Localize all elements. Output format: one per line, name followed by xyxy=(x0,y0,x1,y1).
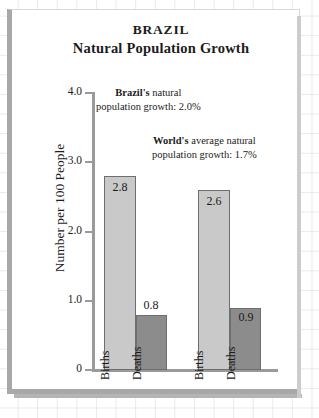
annotation-brazil-line2: population growth: 2.0% xyxy=(96,100,201,114)
y-tick-mark-0 xyxy=(85,369,92,371)
y-tick-label-0: 0 xyxy=(46,362,82,374)
annotation-brazil-rest: natural xyxy=(150,87,182,98)
y-tick-mark-1 xyxy=(85,300,92,302)
bar-value-deaths-world: 0.9 xyxy=(226,310,266,325)
bar-value-deaths-brazil: 0.8 xyxy=(131,298,171,313)
bar-value-births-brazil: 2.8 xyxy=(100,180,140,195)
annotation-world-bold: World's xyxy=(153,135,189,146)
bar-value-births-world: 2.6 xyxy=(194,194,234,209)
chart-title-block: BRAZIL Natural Population Growth xyxy=(30,22,292,57)
y-axis-line xyxy=(92,92,95,372)
annotation-brazil-bold: Brazil's xyxy=(115,87,149,98)
chart-title: BRAZIL xyxy=(30,22,292,39)
bar-label-births-brazil: Births xyxy=(98,351,113,380)
y-tick-mark-3 xyxy=(85,161,92,163)
bar-label-deaths-world: Deaths xyxy=(224,347,239,380)
bar-label-births-world: Births xyxy=(192,351,207,380)
y-tick-mark-2 xyxy=(85,231,92,233)
annotation-world-line2: population growth: 1.7% xyxy=(152,148,257,162)
annotation-world: World's average natural population growt… xyxy=(152,134,257,161)
y-tick-mark-4 xyxy=(85,92,92,94)
annotation-world-rest: average natural xyxy=(189,135,256,146)
chart-subtitle: Natural Population Growth xyxy=(30,39,292,57)
annotation-brazil: Brazil's natural population growth: 2.0% xyxy=(96,86,201,113)
bar-chart: BRAZIL Natural Population Growth Brazil'… xyxy=(0,0,319,418)
bar-births-world[interactable] xyxy=(198,190,230,370)
bar-label-deaths-brazil: Deaths xyxy=(130,347,145,380)
bar-births-brazil[interactable] xyxy=(104,176,136,370)
y-axis-title: Number per 100 People xyxy=(52,108,68,308)
y-tick-label-4: 4.0 xyxy=(46,85,82,97)
